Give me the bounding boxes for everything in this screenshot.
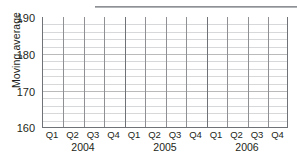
y-tick-label: 170	[17, 87, 35, 98]
y-axis-tick-labels: 190 180 170 160	[0, 0, 40, 158]
x-group-label-year: 2004	[42, 142, 124, 153]
x-tick-label: Q3	[247, 130, 267, 140]
y-tick-label: 160	[17, 123, 35, 134]
x-tick-label: Q1	[206, 130, 226, 140]
y-tick-label: 190	[17, 13, 35, 24]
top-rule-divider	[95, 6, 297, 8]
x-tick-label: Q2	[226, 130, 247, 140]
gridline-vertical	[63, 17, 64, 127]
gridlines	[43, 17, 288, 127]
gridline-vertical	[84, 17, 85, 127]
gridline-vertical	[248, 17, 249, 127]
x-tick-label: Q4	[185, 130, 206, 140]
gridline-vertical	[186, 17, 187, 127]
x-tick-label: Q3	[83, 130, 103, 140]
gridline-vertical	[227, 17, 228, 127]
gridline-vertical	[104, 17, 105, 127]
y-tick-label: 180	[17, 50, 35, 61]
x-tick-label: Q3	[165, 130, 185, 140]
x-tick-label: Q4	[267, 130, 288, 140]
x-tick-label: Q4	[103, 130, 124, 140]
x-tick-label: Q2	[62, 130, 83, 140]
chart-figure: Moving average 190 180 170 160	[0, 0, 297, 158]
plot-area	[42, 17, 288, 128]
x-tick-label: Q1	[42, 130, 62, 140]
gridline-vertical	[166, 17, 167, 127]
x-axis-group-labels: 2004 2005 2006	[42, 142, 288, 156]
gridline-vertical-year	[207, 17, 208, 127]
x-tick-label: Q2	[144, 130, 165, 140]
gridline-vertical	[268, 17, 269, 127]
x-group-label-year: 2006	[206, 142, 288, 153]
x-tick-label: Q1	[124, 130, 144, 140]
gridline-vertical-year	[125, 17, 126, 127]
x-group-label-year: 2005	[124, 142, 206, 153]
gridline-vertical	[145, 17, 146, 127]
gridline-vertical-right-edge	[287, 17, 288, 127]
